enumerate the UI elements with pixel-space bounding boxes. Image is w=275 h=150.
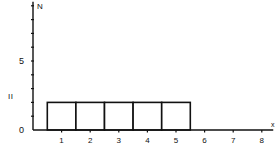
x-tick-label: 5 xyxy=(174,136,179,145)
y-tick-label: 5 xyxy=(19,56,24,66)
x-tick-label: 7 xyxy=(231,136,236,145)
y-axis-label: N xyxy=(37,2,43,11)
x-tick-label: 6 xyxy=(202,136,207,145)
x-tick-label: 1 xyxy=(59,136,64,145)
x-axis-label: x xyxy=(271,121,275,128)
x-tick-label: 4 xyxy=(145,136,150,145)
histogram-bar xyxy=(105,102,134,130)
histogram-bar xyxy=(76,102,105,130)
histogram-bar xyxy=(162,102,191,130)
histogram-bar xyxy=(133,102,162,130)
histogram-chart: 0512345678NxII xyxy=(0,0,275,150)
x-tick-label: 8 xyxy=(260,136,265,145)
side-label: II xyxy=(8,92,13,101)
x-tick-label: 2 xyxy=(88,136,93,145)
x-tick-label: 3 xyxy=(117,136,122,145)
chart-canvas: 0512345678NxII xyxy=(0,0,275,150)
y-tick-label: 0 xyxy=(19,125,24,135)
histogram-bar xyxy=(47,102,76,130)
